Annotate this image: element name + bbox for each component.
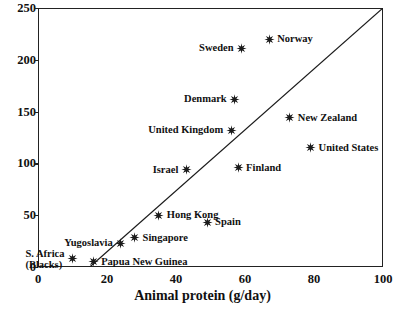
data-point-marker [88,256,99,267]
data-point-marker [233,162,244,173]
y-tick-label: 150 [2,104,36,119]
data-point-marker [305,142,316,153]
data-point-marker [67,253,78,264]
data-point-label: New Zealand [298,112,357,123]
data-point-marker [226,125,237,136]
data-point-label: Singapore [143,232,188,243]
y-tick-mark [34,60,38,61]
y-tick-mark [34,215,38,216]
data-point-label: S. Africa (Blacks) [25,248,64,270]
data-point-marker [236,43,247,54]
y-tick-label: 100 [2,156,36,171]
data-point-label: Israel [153,164,179,175]
data-point-label: Norway [277,34,313,45]
data-point-marker [153,210,164,221]
x-tick-label: 40 [170,272,183,287]
data-point-label: United States [319,142,379,153]
y-tick-label: 50 [2,208,36,223]
x-tick-label: 60 [239,272,252,287]
x-tick-label: 80 [308,272,321,287]
data-point-label: Finland [246,162,281,173]
data-point-marker [229,94,240,105]
data-point-label: Sweden [199,43,233,54]
data-point-marker [115,238,126,249]
data-point-marker [129,232,140,243]
x-tick-label: 0 [35,272,41,287]
data-point-label: United Kingdom [148,125,223,136]
data-point-label: Yugoslavia [64,238,113,249]
data-point-marker [284,112,295,123]
data-point-label: Denmark [184,94,227,105]
x-tick-label: 100 [374,272,393,287]
y-tick-mark [34,112,38,113]
data-point-label: Papua New Guinea [101,256,187,267]
y-tick-label: 250 [2,1,36,16]
data-point-marker [264,34,275,45]
x-axis-title: Animal protein (g/day) [0,288,405,304]
data-point-label: Hong Kong [167,210,219,221]
x-tick-label: 20 [101,272,114,287]
data-point-marker [181,164,192,175]
data-point-label: Spain [215,217,241,228]
y-tick-label: 200 [2,52,36,67]
y-tick-mark [34,8,38,9]
scatter-chart: 050100150200250 020406080100 NorwaySwede… [0,0,405,310]
y-tick-mark [34,163,38,164]
